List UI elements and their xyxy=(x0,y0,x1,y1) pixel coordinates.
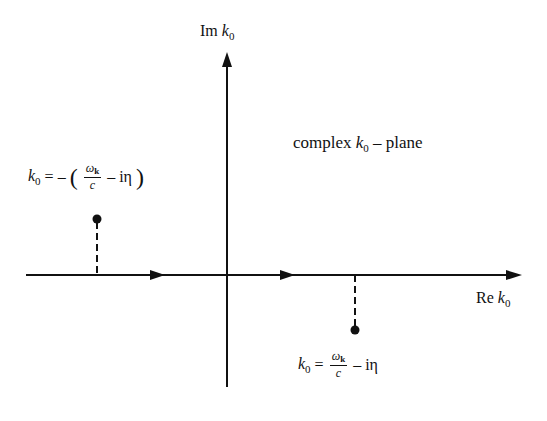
close-paren: ) xyxy=(136,164,144,190)
frac-num-sub: k xyxy=(94,166,99,176)
re-prefix: Re xyxy=(476,289,494,306)
plane-suffix: – plane xyxy=(373,133,423,152)
real-axis-label: Re k0 xyxy=(476,290,510,309)
plane-label: complex k0 – plane xyxy=(293,134,423,154)
minus-i-eta: – iη xyxy=(353,356,378,373)
re-sub: 0 xyxy=(505,297,511,309)
lhs-sub: 0 xyxy=(35,175,41,187)
im-sub: 0 xyxy=(229,30,235,42)
open-paren: ( xyxy=(70,164,78,190)
plane-prefix: complex xyxy=(293,133,352,152)
omega-over-c: ωk c xyxy=(84,162,102,192)
real-axis-arrowhead xyxy=(506,270,522,280)
equals: = xyxy=(315,356,324,373)
equals-minus: = – xyxy=(45,168,66,185)
frac-num: ω xyxy=(86,161,94,175)
contour-arrow-right xyxy=(280,270,295,280)
frac-den: c xyxy=(330,366,348,380)
frac-num: ω xyxy=(332,349,340,363)
frac-den: c xyxy=(84,178,102,192)
im-var: k xyxy=(222,22,229,39)
pole-lower-right-formula: k0 = ωk c – iη xyxy=(298,350,378,380)
complex-plane-figure xyxy=(0,0,547,421)
lhs-sub: 0 xyxy=(305,363,311,375)
minus-i-eta: – iη xyxy=(107,168,132,185)
pole-upper-left-formula: k0 = – ( ωk c – iη ) xyxy=(28,162,144,192)
plane-sub: 0 xyxy=(363,142,369,154)
contour-arrow-left xyxy=(150,270,165,280)
frac-num-sub: k xyxy=(340,354,345,364)
omega-over-c: ωk c xyxy=(330,350,348,380)
imaginary-axis-label: Im k0 xyxy=(200,23,234,42)
pole-lower-right-dot xyxy=(351,326,360,335)
pole-upper-left-dot xyxy=(93,215,102,224)
imaginary-axis-arrowhead xyxy=(222,52,232,67)
re-var: k xyxy=(498,289,505,306)
im-prefix: Im xyxy=(200,22,218,39)
